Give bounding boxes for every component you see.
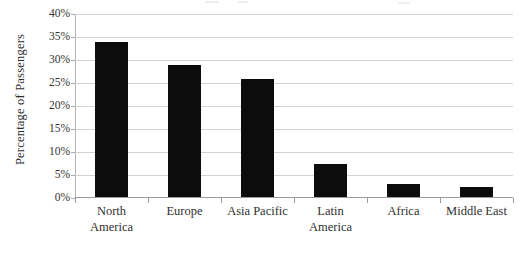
y-axis-tick [71, 129, 75, 130]
x-axis-label: LatinAmerica [294, 203, 367, 235]
scan-artifact [205, 1, 219, 3]
gridline [75, 175, 513, 176]
x-axis-label-line: Asia Pacific [221, 203, 294, 219]
y-axis-tick-labels: 40%35%30%25%20%15%10%5%0% [32, 0, 70, 255]
y-axis-tick [71, 14, 75, 15]
gridline [75, 14, 513, 15]
y-axis-tick [71, 37, 75, 38]
x-axis-label: NorthAmerica [75, 203, 148, 235]
bar [95, 42, 128, 197]
x-axis-label-line: Latin [294, 203, 367, 219]
x-axis-label-line: Europe [148, 203, 221, 219]
y-axis-tick-label: 20% [32, 100, 70, 112]
scan-artifact [398, 2, 410, 4]
y-axis-tick-label: 10% [32, 146, 70, 158]
y-axis-tick-label: 30% [32, 54, 70, 66]
y-axis-tick-label: 0% [32, 192, 70, 204]
gridline [75, 60, 513, 61]
gridline [75, 152, 513, 153]
x-axis-label: Middle East [440, 203, 513, 219]
y-axis-tick-label: 15% [32, 123, 70, 135]
x-axis-label-line: Africa [367, 203, 440, 219]
y-axis-tick [71, 152, 75, 153]
y-axis-tick [71, 175, 75, 176]
bar [460, 187, 493, 197]
bar [168, 65, 201, 197]
bar-chart-figure: Percentage of Passengers 40%35%30%25%20%… [0, 0, 528, 255]
y-axis-tick-label: 25% [32, 77, 70, 89]
x-axis-tick [513, 198, 514, 203]
gridline [75, 106, 513, 107]
x-axis-label-line: Middle East [440, 203, 513, 219]
plot-area [75, 14, 513, 198]
gridline [75, 129, 513, 130]
gridline [75, 83, 513, 84]
y-axis-tick [71, 83, 75, 84]
y-axis-tick [71, 60, 75, 61]
y-axis-title: Percentage of Passengers [13, 5, 28, 195]
x-axis-label: Asia Pacific [221, 203, 294, 219]
gridline [75, 37, 513, 38]
x-axis-label-line: America [294, 219, 367, 235]
bar [314, 164, 347, 197]
bar [387, 184, 420, 197]
x-axis-label-line: America [75, 219, 148, 235]
scan-artifact [238, 1, 248, 3]
y-axis-tick-label: 35% [32, 31, 70, 43]
x-axis-label: Europe [148, 203, 221, 219]
y-axis-tick-label: 40% [32, 8, 70, 20]
y-axis-tick-label: 5% [32, 169, 70, 181]
bar [241, 79, 274, 197]
x-axis-label: Africa [367, 203, 440, 219]
x-axis-label-line: North [75, 203, 148, 219]
y-axis-tick [71, 106, 75, 107]
x-axis-category-labels: NorthAmericaEuropeAsia PacificLatinAmeri… [75, 203, 513, 253]
